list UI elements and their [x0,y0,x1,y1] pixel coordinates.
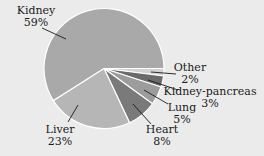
pie-slices [44,9,164,129]
slice-percent-heart: 8% [153,135,170,148]
slice-percent-kidney-pancreas: 3% [201,97,218,110]
pie-chart: Kidney59%Other2%Kidney-pancreas3%Lung5%H… [0,0,264,156]
slice-percent-kidney: 59% [24,16,48,29]
slice-percent-liver: 23% [48,135,72,148]
